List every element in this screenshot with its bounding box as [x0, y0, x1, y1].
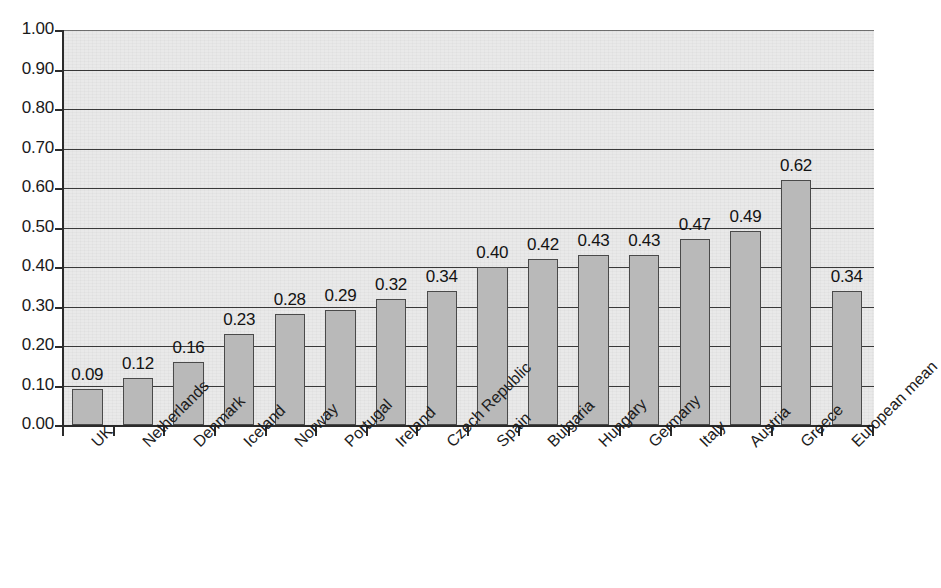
bar[interactable]	[123, 378, 153, 425]
cropped-caption-bleed: · · · · · ·	[170, 0, 730, 9]
y-axis-tick-label: 0.80	[0, 98, 54, 118]
y-axis-tick-label: 1.00	[0, 19, 54, 39]
bar-series: 0.090.120.160.230.280.290.320.340.400.42…	[62, 30, 872, 425]
y-axis-tick-label: 0.70	[0, 138, 54, 158]
bar-group: 0.16	[163, 30, 214, 425]
bar-value-label: 0.23	[209, 310, 270, 330]
y-axis-tick-label: 0.90	[0, 59, 54, 79]
bar-value-label: 0.34	[816, 267, 877, 287]
y-axis-tick-label: 0.40	[0, 256, 54, 276]
x-axis-category-labels: UKNetherlandsDenmarkIcelandNorwayPortuga…	[62, 438, 894, 588]
bar[interactable]	[427, 291, 457, 425]
bar-group: 0.49	[720, 30, 771, 425]
bar[interactable]	[528, 259, 558, 425]
bar-group: 0.34	[416, 30, 467, 425]
y-axis-tick-label: 0.30	[0, 296, 54, 316]
bar-group: 0.28	[265, 30, 316, 425]
bar-group: 0.23	[214, 30, 265, 425]
bar-group: 0.40	[467, 30, 518, 425]
bar[interactable]	[72, 389, 102, 425]
x-axis-tick-mark	[62, 427, 64, 436]
y-axis-tick-label: 0.10	[0, 375, 54, 395]
bar-value-label: 0.62	[766, 156, 827, 176]
bar-group: 0.62	[771, 30, 822, 425]
bar[interactable]	[781, 180, 811, 425]
y-axis-tick-label: 0.60	[0, 177, 54, 197]
bar-group: 0.12	[113, 30, 164, 425]
bar-group: 0.29	[315, 30, 366, 425]
bar-group: 0.43	[568, 30, 619, 425]
bar-group: 0.47	[670, 30, 721, 425]
y-axis-tick-label: 0.20	[0, 335, 54, 355]
bar-value-label: 0.16	[158, 338, 219, 358]
bar[interactable]	[730, 231, 760, 425]
bar-group: 0.43	[619, 30, 670, 425]
bar-group: 0.32	[366, 30, 417, 425]
bar-group: 0.34	[821, 30, 872, 425]
bar-value-label: 0.34	[411, 267, 472, 287]
cropped-caption-text: · · · · · ·	[170, 0, 219, 1]
bar-value-label: 0.49	[715, 207, 776, 227]
y-axis-tick-label: 0.50	[0, 217, 54, 237]
y-axis: 1.000.900.800.700.600.500.400.300.200.10…	[0, 30, 54, 425]
bar-group: 0.09	[62, 30, 113, 425]
y-axis-tick-label: 0.00	[0, 414, 54, 434]
